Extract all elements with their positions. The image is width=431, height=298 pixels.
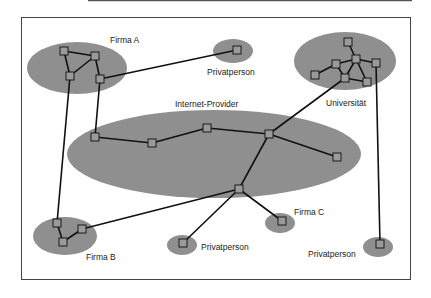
node-universitaet bbox=[372, 59, 380, 67]
node-firma-a bbox=[96, 75, 104, 83]
label-firma-c: Firma C bbox=[294, 207, 324, 217]
edge-provider-firma-b bbox=[82, 189, 239, 229]
node-firma-a bbox=[66, 72, 74, 80]
node-internet-provider bbox=[265, 130, 273, 138]
node-firma-b bbox=[78, 225, 86, 233]
node-universitaet bbox=[332, 60, 340, 68]
label-privatperson-right: Privatperson bbox=[308, 249, 356, 259]
node-firma-b bbox=[53, 219, 61, 227]
label-universitaet: Universität bbox=[326, 98, 367, 108]
label-firma-a: Firma A bbox=[110, 35, 140, 45]
node-privatperson-bottom bbox=[179, 239, 187, 247]
node-firma-b bbox=[59, 238, 67, 246]
node-privatperson-right bbox=[376, 240, 384, 248]
node-universitaet bbox=[344, 38, 352, 46]
network-diagram: Firma A Privatperson Universität Interne… bbox=[0, 0, 431, 298]
edge-uni-privatperson bbox=[376, 63, 380, 244]
node-internet-provider-hub bbox=[235, 185, 243, 193]
cluster-firma-a bbox=[27, 42, 127, 94]
node-internet-provider bbox=[203, 124, 211, 132]
node-firma-a bbox=[60, 47, 68, 55]
cluster-firma-b bbox=[33, 217, 97, 255]
node-internet-provider bbox=[148, 139, 156, 147]
label-internet-provider: Internet-Provider bbox=[175, 99, 238, 109]
node-firma-a bbox=[91, 52, 99, 60]
node-universitaet bbox=[352, 55, 360, 63]
node-universitaet bbox=[363, 78, 371, 86]
label-firma-b: Firma B bbox=[86, 252, 116, 262]
node-privatperson-top bbox=[233, 46, 241, 54]
node-internet-provider bbox=[91, 133, 99, 141]
label-privatperson-bottom: Privatperson bbox=[201, 242, 249, 252]
node-universitaet bbox=[341, 74, 349, 82]
node-firma-c bbox=[278, 217, 286, 225]
cluster-internet-provider bbox=[67, 110, 361, 198]
label-privatperson-top: Privatperson bbox=[207, 67, 255, 77]
node-internet-provider bbox=[333, 153, 341, 161]
node-universitaet bbox=[311, 71, 319, 79]
